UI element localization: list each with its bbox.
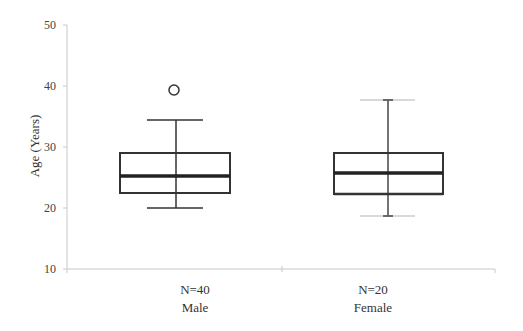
y-tick-10: 10 xyxy=(44,262,56,276)
y-tick-30: 30 xyxy=(44,140,56,154)
x-category-labels: N=40 Male N=20 Female xyxy=(180,282,392,315)
y-axis-ticks xyxy=(63,25,67,269)
box-plot-chart: 50 40 30 20 10 Age (Years) N=40 Male N=2… xyxy=(0,0,523,331)
box-female xyxy=(334,100,443,216)
category-n-female: N=20 xyxy=(358,282,388,297)
iqr-box-male xyxy=(120,153,230,193)
y-axis-title: Age (Years) xyxy=(27,115,42,178)
category-label-male: Male xyxy=(182,300,209,315)
y-tick-40: 40 xyxy=(44,79,56,93)
y-axis-tick-labels: 50 40 30 20 10 xyxy=(44,18,56,276)
y-tick-20: 20 xyxy=(44,201,56,215)
y-tick-50: 50 xyxy=(44,18,56,32)
category-label-female: Female xyxy=(354,300,392,315)
box-male xyxy=(120,85,230,208)
outlier-point-male xyxy=(169,85,179,95)
category-n-male: N=40 xyxy=(180,282,210,297)
